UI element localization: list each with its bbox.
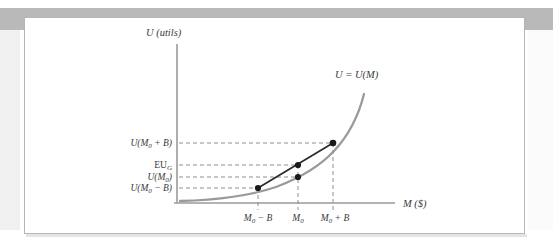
y-tick-main-2: U(M <box>147 172 166 183</box>
x-tick-label-m0: M0 <box>291 213 304 225</box>
y-tick-tail-3: − B) <box>152 183 172 194</box>
point-u-m0 <box>295 174 301 180</box>
point-u-m0-plus-b <box>330 140 337 147</box>
y-tick-tail-2: ) <box>168 172 172 183</box>
utility-curve <box>180 94 364 201</box>
figure-page: U (utils) M ($) U = U(M) <box>0 0 553 252</box>
y-tick-main-1: EU <box>154 160 167 170</box>
y-tick-labels-group: U(M0 + B) EUG U(M0) U(M0 − B) <box>130 138 172 195</box>
y-tick-tail-0: + B) <box>152 138 172 149</box>
decorative-left-strip <box>0 30 20 230</box>
point-u-m0-minus-b <box>255 185 261 191</box>
x-axis-title: M ($) <box>402 198 427 210</box>
y-tick-main-3: U(M <box>130 183 149 194</box>
x-tick-label-m0-minus-b: M0 − B <box>243 213 273 225</box>
y-axis-title: U (utils) <box>146 27 182 39</box>
x-tick-sub-1: 0 <box>300 217 304 225</box>
curve-label: U = U(M) <box>335 69 379 81</box>
point-eu-g <box>295 162 301 168</box>
x-tick-tail-2: + B <box>332 213 349 223</box>
axis-group <box>174 44 395 203</box>
x-tick-label-m0-plus-b: M0 + B <box>320 213 350 225</box>
y-tick-label-u-m0-plus-b: U(M0 + B) <box>130 138 172 150</box>
y-tick-label-u-m0-minus-b: U(M0 − B) <box>130 183 172 195</box>
x-tick-tail-0: − B <box>255 213 272 223</box>
panel-shadow <box>26 234 527 237</box>
decorative-right-strip <box>528 30 553 230</box>
utility-curve-chart: U (utils) M ($) U = U(M) <box>24 17 525 234</box>
y-tick-main-0: U(M <box>130 138 149 149</box>
y-tick-label-eu-g: EUG <box>154 160 172 172</box>
x-tick-labels-group: M0 − B M0 M0 + B <box>243 213 350 225</box>
